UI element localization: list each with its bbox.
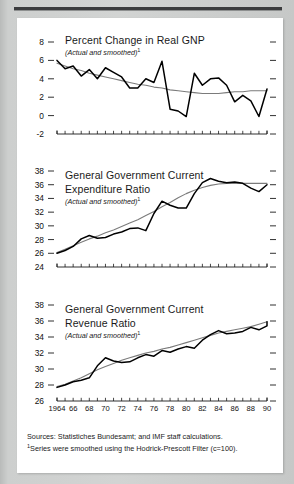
footnote-method: 1Series were smoothed using the Hodrick-… xyxy=(27,443,275,455)
footnote-sources: Sources: Statistiches Bundesamt; and IMF… xyxy=(27,432,275,443)
series-line-actual xyxy=(57,322,267,388)
x-axis-tick-label: 90 xyxy=(252,404,282,413)
chart-2-plot xyxy=(17,159,283,294)
series-line-actual xyxy=(57,179,267,254)
top-divider-shadow xyxy=(14,10,282,11)
chart-1-plot xyxy=(17,24,283,159)
figure-page: Percent Change in Real GNP (Actual and s… xyxy=(0,0,294,484)
series-line-smoothed xyxy=(57,322,267,387)
series-line-smoothed xyxy=(57,183,267,252)
figure-footnotes: Sources: Statistiches Bundesamt; and IMF… xyxy=(27,432,275,455)
chart-panel-percent-change-real-gnp: Percent Change in Real GNP (Actual and s… xyxy=(17,24,283,159)
series-line-smoothed xyxy=(57,63,267,93)
figure-card: Percent Change in Real GNP (Actual and s… xyxy=(17,18,283,473)
footnote-method-text: Series were smoothed using the Hodrick-P… xyxy=(30,444,237,453)
chart-panel-expenditure-ratio: General Government Current Expenditure R… xyxy=(17,159,283,294)
chart-panel-revenue-ratio: General Government Current Revenue Ratio… xyxy=(17,295,283,427)
